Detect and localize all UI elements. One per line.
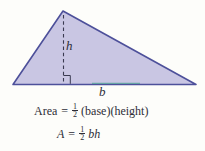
formula-rhs: (base)(height)	[81, 104, 148, 118]
figure-canvas: h b Area = 1 2 (base)(height) A = 1 2 bh	[0, 0, 205, 151]
formula-lhs: A	[57, 127, 64, 141]
base-label: b	[99, 85, 106, 98]
equals-sign: =	[61, 104, 68, 118]
fraction-one-half: 1 2	[72, 103, 78, 118]
equals-sign: =	[68, 127, 75, 141]
fraction-denominator: 2	[72, 111, 78, 118]
formula-rhs: bh	[88, 127, 100, 141]
area-formula-short: A = 1 2 bh	[57, 126, 100, 141]
fraction-denominator: 2	[79, 134, 85, 141]
formula-lhs: Area	[34, 104, 57, 118]
triangle-shape	[13, 11, 196, 85]
height-label: h	[66, 39, 73, 52]
area-formula-long: Area = 1 2 (base)(height)	[34, 103, 148, 118]
fraction-one-half: 1 2	[79, 126, 85, 141]
